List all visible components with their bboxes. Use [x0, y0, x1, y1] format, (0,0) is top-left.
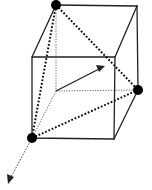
- hidden-edge-diagonal: [32, 91, 56, 138]
- edge-top-right: [115, 6, 137, 57]
- vector-arrow: [56, 65, 105, 91]
- bond-bottom-left-to-right: [32, 90, 138, 138]
- edge-top-left: [32, 5, 56, 57]
- atom-bottom-left: [27, 133, 37, 143]
- atom-top: [51, 0, 61, 10]
- axis-arrow: [7, 138, 32, 184]
- axis-arrow-shaft: [11, 138, 32, 177]
- cube-diagram: [0, 0, 152, 190]
- atom-right: [133, 85, 143, 95]
- edge-bottom-right: [114, 90, 138, 139]
- bond-top-to-bottom-left: [32, 5, 56, 138]
- axis-arrowhead-icon: [7, 174, 14, 184]
- cube-solid-edges: [32, 5, 138, 139]
- hidden-edge-horizontal: [56, 90, 138, 91]
- vector-arrowhead-icon: [96, 65, 105, 72]
- edge-top-back: [56, 5, 137, 6]
- bond-top-to-right: [56, 5, 138, 90]
- vector-arrow-shaft: [56, 69, 100, 92]
- bonds: [32, 5, 138, 138]
- cube-hidden-edges: [32, 5, 138, 138]
- atoms: [27, 0, 143, 143]
- edge-back-right: [137, 6, 138, 90]
